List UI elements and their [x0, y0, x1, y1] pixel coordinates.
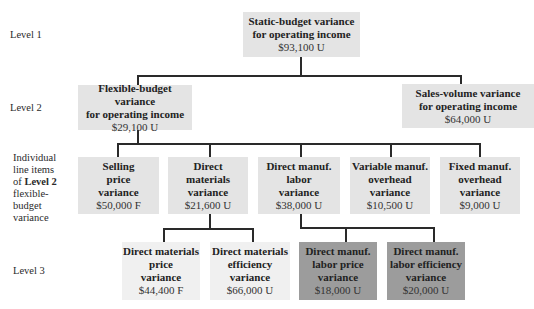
connector-line — [209, 214, 211, 229]
dm-price-variance-node: Direct materials price variance $44,400 … — [122, 242, 200, 300]
direct-materials-variance-node: Direct materials variance $21,600 U — [168, 157, 248, 214]
selling-price-variance-node: Selling price variance $50,000 F — [78, 157, 159, 214]
connector-line — [137, 75, 461, 77]
level-1-label: Level 1 — [10, 29, 42, 41]
flexible-budget-variance-node: Flexible-budget variance for operating i… — [78, 85, 192, 130]
connector-line — [433, 227, 435, 242]
fixed-overhead-variance-node: Fixed manuf. overhead variance $9,000 U — [440, 157, 520, 214]
connector-line — [252, 228, 254, 242]
connector-line — [479, 143, 481, 157]
connector-line — [163, 228, 165, 242]
connector-line — [300, 227, 434, 229]
direct-labor-variance-node: Direct manuf. labor variance $38,000 U — [258, 157, 340, 214]
connector-line — [300, 143, 302, 157]
static-budget-variance-node: Static-budget variance for operating inc… — [243, 12, 360, 57]
dl-efficiency-variance-node: Direct manuf. labor efficiency variance … — [387, 242, 465, 300]
connector-line — [300, 214, 302, 228]
level-2-label: Level 2 — [10, 102, 42, 114]
connector-line — [209, 143, 211, 157]
dm-efficiency-variance-node: Direct materials efficiency variance $66… — [210, 242, 290, 300]
connector-line — [117, 143, 480, 145]
level-3-label: Level 3 — [13, 265, 45, 277]
connector-line — [460, 75, 462, 84]
connector-line — [117, 143, 119, 157]
line-items-label: Individual line items of Level 2 flexibl… — [13, 152, 57, 224]
dl-price-variance-node: Direct manuf. labor price variance $18,0… — [299, 242, 377, 300]
connector-line — [390, 143, 392, 157]
connector-line — [163, 228, 253, 230]
connector-line — [300, 57, 302, 76]
connector-line — [345, 227, 347, 242]
sales-volume-variance-node: Sales-volume variance for operating inco… — [402, 84, 534, 128]
variable-overhead-variance-node: Variable manuf. overhead variance $10,50… — [350, 157, 430, 214]
